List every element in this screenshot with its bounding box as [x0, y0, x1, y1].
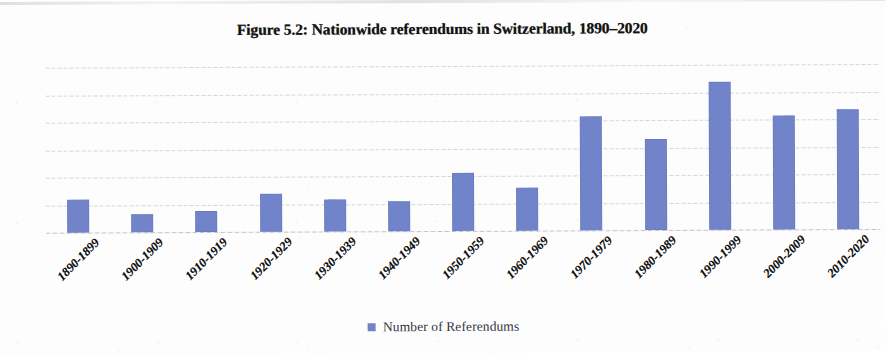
x-axis-tick-label: 2000-2009: [760, 232, 808, 281]
bar-1940-1949: [388, 201, 410, 231]
bar-1950-1959: [452, 173, 474, 231]
figure-container: Figure 5.2: Nationwide referendums in Sw…: [0, 0, 887, 355]
gridlines: [46, 64, 880, 68]
bar-1890-1899: [67, 200, 89, 233]
x-axis-tick-label: 1910-1919: [183, 235, 231, 284]
x-axis-tick-label: 1900-1909: [119, 235, 167, 284]
x-axis-tick-label: 1920-1929: [247, 235, 295, 284]
chart-legend: Number of Referendums: [1, 317, 887, 337]
gridline-60: [46, 147, 880, 152]
legend-label: Number of Referendums: [383, 319, 519, 336]
x-axis-tick-label: 1980-1989: [632, 233, 680, 282]
x-axis-tick-label: 2010-2020: [824, 232, 872, 281]
gridline-100: [46, 92, 880, 97]
bar-1980-1989: [644, 139, 666, 230]
scan-edge-artifact: [0, 0, 885, 5]
plot-area: [46, 64, 881, 233]
bar-1970-1979: [580, 116, 602, 230]
legend-swatch-icon: [368, 323, 376, 331]
bar-1990-1999: [708, 81, 731, 230]
x-axis: 1890-18991900-19091910-19191920-19291930…: [46, 232, 880, 312]
bar-1910-1919: [196, 211, 218, 232]
bar-1920-1929: [260, 193, 282, 232]
x-axis-tick-label: 1940-1949: [375, 234, 423, 283]
x-axis-tick-label: 1930-1939: [311, 234, 359, 283]
bar-2000-2009: [773, 115, 795, 229]
x-axis-tick-label: 1960-1969: [504, 234, 552, 283]
gridline-120: [46, 64, 880, 69]
x-axis-tick-label: 1990-1999: [696, 233, 744, 282]
x-axis-tick-label: 1970-1979: [568, 233, 616, 282]
x-axis-tick-label: 1950-1959: [439, 234, 487, 283]
bar-2010-2020: [837, 110, 860, 230]
bar-1900-1909: [131, 214, 153, 232]
x-axis-tick-label: 1890-1899: [55, 236, 103, 285]
bar-1960-1969: [516, 188, 538, 231]
gridline-80: [46, 119, 880, 124]
chart-title: Figure 5.2: Nationwide referendums in Sw…: [0, 18, 885, 40]
bar-1930-1939: [324, 200, 346, 232]
